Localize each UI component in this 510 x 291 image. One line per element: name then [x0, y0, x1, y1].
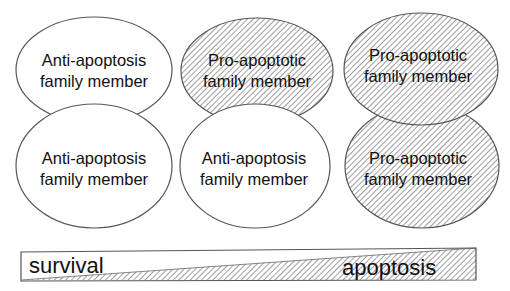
survival-label: survival [29, 253, 104, 278]
apoptosis-label: apoptosis [342, 255, 436, 280]
label-col2-top-line2: family member [203, 72, 312, 90]
label-col2-bottom-line1: Anti-apoptosis [202, 149, 307, 167]
column-3: Pro-apoptotic family member Pro-apoptoti… [344, 13, 499, 228]
apoptosis-balance-diagram: Anti-apoptosis family member Anti-apopto… [0, 0, 510, 291]
label-col1-top-line1: Anti-apoptosis [42, 51, 147, 69]
label-col1-bottom-line1: Anti-apoptosis [42, 149, 147, 167]
label-col2-top-line1: Pro-apoptotic [208, 51, 306, 69]
label-col2-bottom-line2: family member [200, 170, 309, 188]
label-col3-bottom-line1: Pro-apoptotic [369, 149, 467, 167]
column-1: Anti-apoptosis family member Anti-apopto… [16, 17, 172, 228]
label-col1-bottom-line2: family member [40, 170, 149, 188]
label-col3-top-line2: family member [364, 67, 473, 85]
survival-apoptosis-bar: survival apoptosis [21, 248, 476, 281]
label-col1-top-line2: family member [40, 72, 149, 90]
label-col3-top-line1: Pro-apoptotic [369, 46, 467, 64]
label-col3-bottom-line2: family member [364, 170, 473, 188]
column-2: Pro-apoptotic family member Anti-apoptos… [180, 18, 333, 228]
